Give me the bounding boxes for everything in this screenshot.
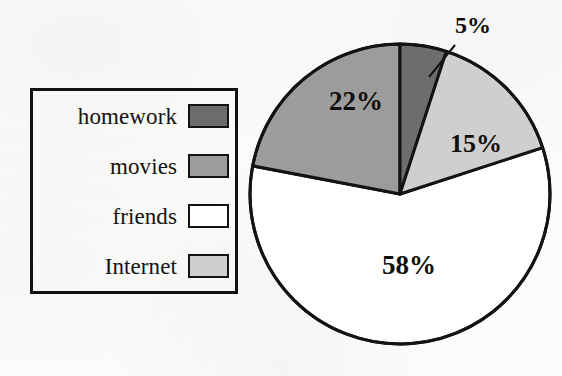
chart-page: homework movies friends Internet bbox=[0, 0, 562, 376]
pie-chart-svg bbox=[0, 0, 562, 376]
slice-value-movies: 22% bbox=[329, 88, 383, 115]
slice-value-internet: 15% bbox=[450, 131, 502, 157]
slice-value-friends: 58% bbox=[382, 252, 436, 279]
pie-chart: 22% 15% 58% 5% bbox=[0, 0, 562, 376]
pie-slice-movies[interactable] bbox=[253, 44, 400, 194]
slice-value-homework: 5% bbox=[455, 13, 491, 37]
